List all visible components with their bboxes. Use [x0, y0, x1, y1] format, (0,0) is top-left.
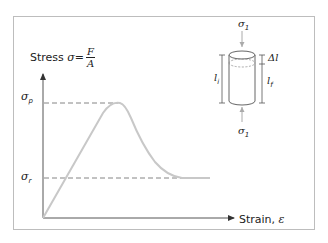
- final-length-label: lf: [267, 75, 273, 89]
- sigma1-bottom-subscript: 1: [245, 131, 249, 139]
- equals-sign: =: [75, 51, 84, 64]
- bottom-load-label: σ1: [238, 125, 249, 139]
- cylinder-specimen: [219, 31, 265, 122]
- sigma1-top-subscript: 1: [245, 24, 249, 32]
- residual-stress-label: σr: [21, 170, 31, 185]
- epsilon-symbol: ε: [279, 213, 285, 226]
- numerator-F: F: [86, 46, 95, 58]
- stress-strain-curve: [43, 103, 210, 218]
- x-axis-label: Strain, ε: [239, 213, 285, 226]
- l-initial-subscript: i: [217, 78, 219, 86]
- delta-l-symbol: Δl: [268, 52, 278, 63]
- strain-text: Strain,: [239, 213, 279, 226]
- sigma-symbol: σ: [67, 51, 75, 64]
- sigma-r-symbol: σ: [21, 170, 29, 183]
- peak-stress-label: σp: [21, 90, 33, 105]
- sigma-p-subscript: p: [29, 97, 33, 105]
- y-axis-label: Stress σ=FA: [30, 46, 95, 69]
- stress-strain-diagram: [0, 0, 328, 243]
- initial-length-label: li: [214, 72, 219, 86]
- sigma-p-symbol: σ: [21, 90, 29, 103]
- sigma1-top-symbol: σ: [238, 18, 245, 29]
- stress-text: Stress: [30, 51, 64, 64]
- force-over-area-fraction: FA: [86, 46, 95, 69]
- sigma1-bottom-symbol: σ: [238, 125, 245, 136]
- l-final-subscript: f: [270, 81, 272, 89]
- denominator-A: A: [86, 58, 95, 69]
- delta-length-label: Δl: [268, 52, 278, 63]
- sigma-r-subscript: r: [29, 177, 32, 185]
- top-load-label: σ1: [238, 18, 249, 32]
